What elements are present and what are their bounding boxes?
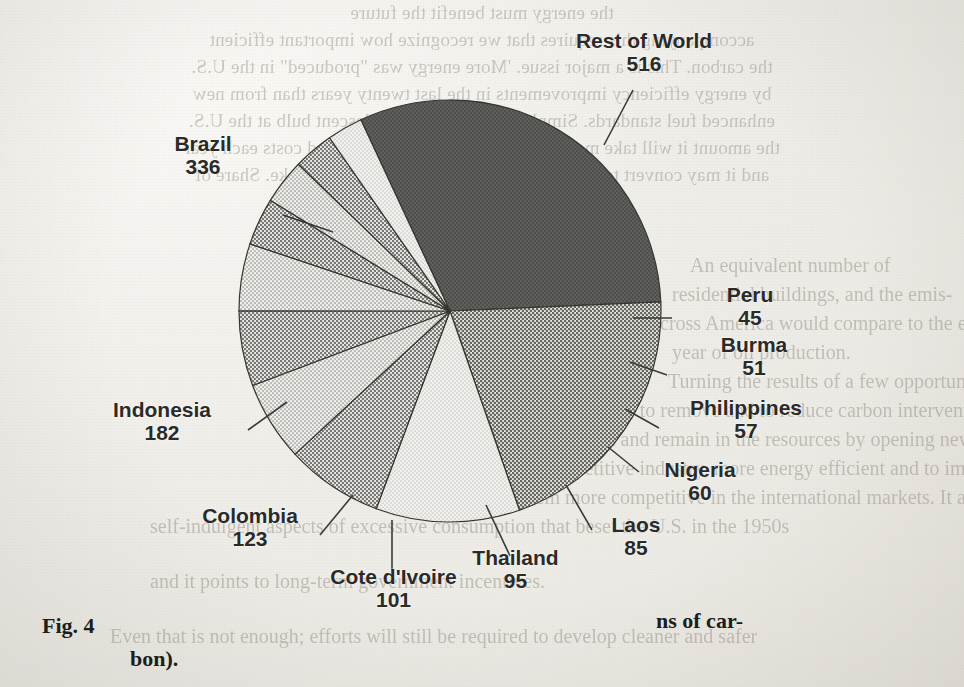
- figure-caption-fragment-mid: ns of car-: [656, 608, 743, 634]
- leader-line-rest-of-world: [604, 90, 633, 145]
- pie-label-burma: Burma 51: [694, 333, 814, 379]
- pie-label-value: 85: [586, 536, 686, 559]
- pie-label-value: 516: [544, 52, 744, 75]
- pie-label-value: 57: [666, 419, 826, 442]
- pie-label-philippines: Philippines 57: [666, 396, 826, 442]
- pie-label-name: Colombia: [202, 504, 298, 527]
- pie-label-name: Cote d'Ivoire: [330, 565, 456, 588]
- pie-label-name: Brazil: [174, 132, 231, 155]
- leader-line-nigeria: [608, 447, 639, 472]
- pie-label-value: 45: [700, 306, 800, 329]
- pie-slice-group: [239, 100, 661, 522]
- figure-caption-fragment-end: bon).: [130, 646, 178, 672]
- pie-label-value: 95: [448, 569, 583, 592]
- pie-label-name: Thailand: [472, 546, 558, 569]
- pie-label-name: Rest of World: [576, 29, 712, 52]
- pie-label-value: 123: [170, 527, 330, 550]
- pie-label-brazil: Brazil 336: [128, 132, 278, 178]
- pie-label-name: Laos: [611, 513, 660, 536]
- pie-label-name: Burma: [721, 333, 788, 356]
- pie-label-name: Peru: [727, 283, 774, 306]
- figure-caption-label: Fig. 4: [42, 613, 95, 639]
- pie-label-colombia: Colombia 123: [170, 504, 330, 550]
- pie-label-name: Indonesia: [113, 398, 211, 421]
- pie-label-value: 336: [128, 155, 278, 178]
- pie-label-value: 60: [640, 481, 760, 504]
- pie-label-name: Nigeria: [664, 458, 735, 481]
- pie-label-value: 51: [694, 356, 814, 379]
- pie-label-nigeria: Nigeria 60: [640, 458, 760, 504]
- pie-label-value: 182: [82, 421, 242, 444]
- pie-label-thailand: Thailand 95: [448, 546, 583, 592]
- pie-label-indonesia: Indonesia 182: [82, 398, 242, 444]
- pie-label-name: Philippines: [690, 396, 802, 419]
- pie-label-laos: Laos 85: [586, 513, 686, 559]
- pie-label-rest-of-world: Rest of World 516: [544, 29, 744, 75]
- pie-label-peru: Peru 45: [700, 283, 800, 329]
